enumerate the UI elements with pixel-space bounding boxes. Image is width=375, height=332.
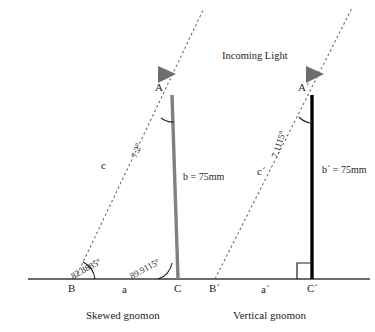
right-gnomon-length-label: b´ = 75mm [322,165,367,175]
left-base-label-B: B [68,283,75,294]
gnomon-comparison-diagram: Incoming Light A B C a c b = 75mm 7.2° 8… [0,0,375,332]
right-base-label-B-prime: B´ [209,283,220,294]
skewed-gnomon-rod [172,95,178,279]
left-adjacent-label-a: a [122,284,127,295]
left-foot-label-C: C [174,283,181,294]
right-hypotenuse-label-c-prime: c´ [257,166,266,177]
left-caption: Skewed gnomon [86,310,160,321]
right-apex-angle-arc [299,117,310,123]
left-apex-label-A: A [155,82,163,93]
right-foot-label-C-prime: C´ [307,283,318,294]
right-apex-label-A-prime: A´ [298,82,310,93]
incoming-light-label: Incoming Light [222,51,288,62]
right-angle-square-marker [297,263,311,279]
diagram-canvas [0,0,375,332]
left-gnomon-length-label: b = 75mm [183,172,224,182]
right-adjacent-label-a-prime: a´ [261,284,270,295]
left-hypotenuse-label-c: c [101,160,106,171]
right-caption: Vertical gnomon [233,310,306,321]
